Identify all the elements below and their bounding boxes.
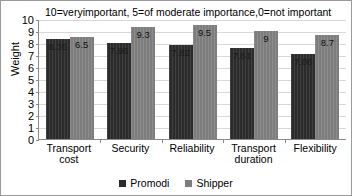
y-tick-label: 2 <box>28 111 34 122</box>
bar-group: 8.356.5 <box>39 20 100 139</box>
bar-value-label: 9.5 <box>198 28 211 38</box>
legend-label: Shipper <box>196 177 232 189</box>
bar-value-label: 7.96 <box>110 46 129 56</box>
y-tick-label: 10 <box>22 15 34 26</box>
bar-shipper[interactable]: 9.3 <box>131 27 155 139</box>
bar-value-label: 8.7 <box>321 38 334 48</box>
x-axis-category-label: Transport cost <box>38 143 100 165</box>
bar-value-label: 7.61 <box>233 51 252 61</box>
bar-value-label: 7.82 <box>171 48 190 58</box>
bar-promodi[interactable]: 7.06 <box>291 54 315 139</box>
bar-promodi[interactable]: 8.35 <box>46 39 70 139</box>
bar-shipper[interactable]: 9.5 <box>193 25 217 139</box>
y-tick-label: 0 <box>28 135 34 146</box>
y-tick-label: 9 <box>28 27 34 38</box>
x-axis-category-label: Transport duration <box>223 143 285 165</box>
bar-group: 7.829.5 <box>162 20 223 139</box>
bar-shipper[interactable]: 6.5 <box>70 37 94 139</box>
bar-groups: 8.356.57.969.37.829.57.6197.068.7 <box>39 20 346 139</box>
y-axis-label: Weight <box>9 19 21 99</box>
bar-promodi[interactable]: 7.96 <box>107 43 131 139</box>
bar-promodi[interactable]: 7.82 <box>169 45 193 139</box>
bar-value-label: 9 <box>263 34 268 44</box>
y-tick-label: 4 <box>28 87 34 98</box>
bar-value-label: 8.35 <box>48 42 67 52</box>
y-tick-label: 7 <box>28 51 34 62</box>
y-tick-label: 5 <box>28 75 34 86</box>
chart-figure: 10=veryimportant, 5=of moderate importan… <box>0 0 352 196</box>
x-axis-category-label: Flexibility <box>284 143 346 165</box>
bar-shipper[interactable]: 8.7 <box>315 35 339 139</box>
bar-group: 7.068.7 <box>285 20 346 139</box>
y-tick-mark <box>36 140 39 141</box>
legend-item[interactable]: Promodi <box>119 177 169 189</box>
chart-title: 10=veryimportant, 5=of moderate importan… <box>45 6 331 18</box>
bar-promodi[interactable]: 7.61 <box>230 48 254 139</box>
plot-area: 012345678910 8.356.57.969.37.829.57.6197… <box>38 20 346 140</box>
x-axis-labels: Transport costSecurityReliabilityTranspo… <box>38 143 346 165</box>
legend-label: Promodi <box>130 177 169 189</box>
y-tick-label: 6 <box>28 63 34 74</box>
bar-shipper[interactable]: 9 <box>254 31 278 139</box>
bar-group: 7.619 <box>223 20 284 139</box>
legend-swatch-icon <box>119 180 126 187</box>
y-tick-label: 8 <box>28 39 34 50</box>
bar-value-label: 9.3 <box>137 30 150 40</box>
x-axis-category-label: Security <box>100 143 162 165</box>
y-tick-label: 1 <box>28 123 34 134</box>
chart-legend: PromodiShipper <box>1 177 351 189</box>
legend-swatch-icon <box>185 180 192 187</box>
bar-value-label: 6.5 <box>75 40 88 50</box>
bar-group: 7.969.3 <box>100 20 161 139</box>
bar-value-label: 7.06 <box>294 57 313 67</box>
x-axis-category-label: Reliability <box>161 143 223 165</box>
y-tick-label: 3 <box>28 99 34 110</box>
legend-item[interactable]: Shipper <box>185 177 232 189</box>
